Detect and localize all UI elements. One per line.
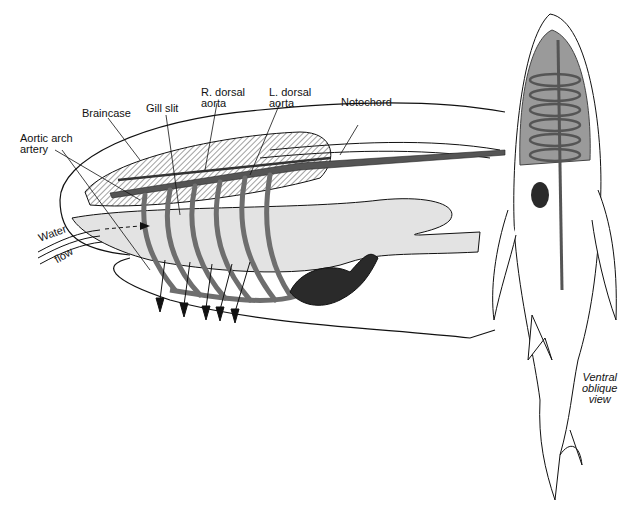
diagram-canvas [0, 0, 637, 514]
label-l-dorsal-aorta: L. dorsal aorta [269, 87, 311, 109]
ventral-view [493, 14, 617, 500]
label-notochord: Notochord [341, 97, 392, 108]
label-aortic-arch: Aortic arch artery [20, 133, 73, 155]
label-r-dorsal-aorta: R. dorsal aorta [201, 87, 245, 109]
lateral-view [38, 103, 505, 338]
label-gill-slit: Gill slit [146, 103, 178, 114]
ventral-heart [531, 182, 549, 208]
pectoral-fin-left [493, 210, 516, 320]
label-view-caption: Ventral oblique view [582, 372, 617, 405]
label-braincase: Braincase [82, 108, 131, 119]
